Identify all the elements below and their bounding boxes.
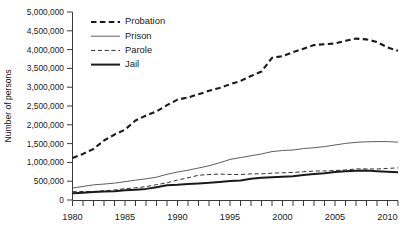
legend-label-prison: Prison <box>125 30 152 41</box>
x-tick-label: 1990 <box>167 212 187 222</box>
y-tick-label: 5,000,000 <box>27 7 65 17</box>
data-series-group <box>73 39 399 194</box>
legend-label-jail: Jail <box>125 58 139 69</box>
x-tick-label: 1995 <box>220 212 240 222</box>
chart-svg: 0500,0001,000,0001,500,0002,000,0002,500… <box>0 0 403 232</box>
y-tick-label: 4,500,000 <box>27 26 65 36</box>
y-tick-label: 3,500,000 <box>27 63 65 73</box>
y-tick-label: 3,000,000 <box>27 82 65 92</box>
y-axis-group: 0500,0001,000,0001,500,0002,000,0002,500… <box>3 7 73 205</box>
x-axis-group: 1980198519901995200020052010 <box>62 201 398 223</box>
x-tick-label: 2000 <box>272 212 292 222</box>
y-tick-marks <box>67 12 73 200</box>
legend-label-parole: Parole <box>125 44 152 55</box>
y-tick-label: 0 <box>59 195 64 205</box>
x-tick-label: 1980 <box>62 212 82 222</box>
y-tick-label: 500,000 <box>34 176 65 186</box>
y-axis-title: Number of persons <box>3 69 13 142</box>
correctional-population-line-chart: 0500,0001,000,0001,500,0002,000,0002,500… <box>0 0 403 232</box>
y-tick-label: 2,000,000 <box>27 120 65 130</box>
x-tick-label: 2005 <box>325 212 345 222</box>
chart-legend: ProbationPrisonParoleJail <box>91 15 165 69</box>
x-tick-label: 2010 <box>377 212 397 222</box>
series-line-probation <box>73 39 399 158</box>
x-tick-labels: 1980198519901995200020052010 <box>62 212 397 222</box>
x-tick-marks <box>73 201 399 207</box>
legend-label-probation: Probation <box>125 15 165 26</box>
y-tick-labels: 0500,0001,000,0001,500,0002,000,0002,500… <box>27 7 65 205</box>
y-tick-label: 1,500,000 <box>27 139 65 149</box>
y-tick-label: 1,000,000 <box>27 157 65 167</box>
y-tick-label: 4,000,000 <box>27 45 65 55</box>
x-tick-label: 1985 <box>115 212 135 222</box>
y-tick-label: 2,500,000 <box>27 101 65 111</box>
